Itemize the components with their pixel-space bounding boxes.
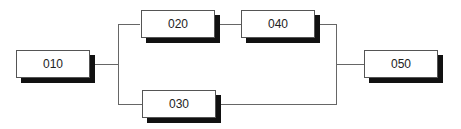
connector-left-split (118, 24, 119, 105)
node-020: 020 (141, 10, 215, 38)
node-010: 010 (16, 50, 90, 78)
node-label: 020 (168, 17, 188, 31)
connector-junction-030 (118, 104, 142, 105)
node-label: 030 (169, 97, 189, 111)
connector-010-junction (90, 64, 118, 65)
node-040: 040 (241, 10, 315, 38)
connector-junction-050 (336, 64, 364, 65)
node-label: 050 (391, 57, 411, 71)
connector-junction-020 (118, 24, 140, 25)
node-label: 010 (43, 57, 63, 71)
connector-040-junction (320, 24, 336, 25)
node-label: 040 (268, 17, 288, 31)
network-diagram: 010 020 030 040 050 (0, 0, 461, 129)
node-030: 030 (142, 90, 216, 118)
node-050: 050 (364, 50, 438, 78)
connector-030-junction (220, 104, 336, 105)
connector-020-040 (220, 24, 241, 25)
